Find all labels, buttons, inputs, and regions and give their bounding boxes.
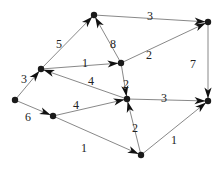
edge-weight-label: 2 bbox=[146, 48, 152, 62]
graph-svg: 365144183227321 bbox=[0, 0, 222, 169]
edge-weight-label: 6 bbox=[25, 110, 31, 124]
arrowhead-icon bbox=[95, 17, 104, 28]
edge-weight-label: 1 bbox=[171, 133, 177, 147]
edge-weight-label: 1 bbox=[82, 56, 88, 70]
edge-weight-label: 2 bbox=[123, 77, 129, 91]
edge-F-G bbox=[141, 101, 208, 155]
edge-weight-label: 2 bbox=[132, 121, 138, 135]
graph-node-H bbox=[205, 19, 211, 25]
graph-node-C bbox=[50, 113, 56, 119]
arrowhead-icon bbox=[195, 103, 206, 113]
graph-node-T bbox=[91, 12, 97, 18]
edge-weight-label: 3 bbox=[161, 91, 167, 105]
edge-weight-label: 4 bbox=[73, 98, 79, 112]
edge-weight-label: 3 bbox=[147, 9, 153, 23]
edge-C-E bbox=[53, 99, 127, 116]
edge-weight-label: 4 bbox=[88, 74, 94, 88]
edge-weight-label: 7 bbox=[190, 57, 196, 71]
graph-node-G bbox=[205, 98, 211, 104]
edge-E-G bbox=[127, 99, 208, 101]
edge-weight-label: 5 bbox=[56, 37, 62, 51]
graph-node-D bbox=[118, 60, 124, 66]
edge-C-F bbox=[53, 116, 141, 155]
graph-node-A bbox=[12, 97, 18, 103]
edge-E-B bbox=[41, 69, 127, 99]
edge-weight-label: 8 bbox=[110, 37, 116, 51]
arrowhead-icon bbox=[30, 71, 40, 82]
labels-layer: 365144183227321 bbox=[21, 9, 196, 155]
graph-node-B bbox=[38, 66, 44, 72]
graph-node-E bbox=[124, 96, 130, 102]
edge-weight-label: 3 bbox=[21, 72, 27, 86]
nodes-layer bbox=[12, 12, 211, 158]
graph-diagram: 365144183227321 bbox=[0, 0, 222, 169]
graph-node-F bbox=[138, 152, 144, 158]
edge-weight-label: 1 bbox=[81, 141, 87, 155]
